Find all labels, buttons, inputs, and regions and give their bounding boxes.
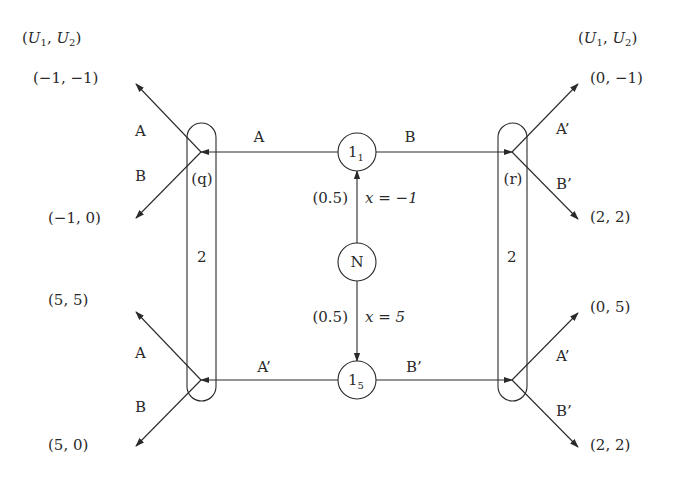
belief-label-r: (r) (504, 170, 523, 188)
payoff-header-left: (U1, U2) (22, 29, 81, 48)
payoff-right-top-upper: (0, −1) (590, 69, 643, 87)
action-label-1_1-left: A (253, 128, 265, 146)
payoff-left-bottom-upper: (5, 5) (48, 291, 88, 309)
payoff-right-bottom-lower: (2, 2) (590, 436, 630, 454)
node-nature-label: N (350, 253, 363, 271)
payoff-right-bottom-upper: (0, 5) (590, 298, 630, 316)
action-right-bottom-lower: B’ (556, 402, 572, 420)
nature-event-up: x = −1 (365, 189, 418, 207)
player-label-right: 2 (507, 248, 517, 266)
action-right-top-lower: B’ (556, 175, 572, 193)
nature-prob-down: (0.5) (312, 308, 348, 326)
action-left-top-lower: B (135, 167, 146, 185)
belief-label-q: (q) (191, 170, 212, 188)
edge-right-top-A-prime (512, 84, 578, 152)
action-left-top-upper: A (134, 122, 146, 140)
nature-prob-up: (0.5) (312, 189, 348, 207)
action-label-1_5-left: A’ (256, 358, 270, 376)
edge-left-top-A (136, 84, 201, 152)
payoff-left-top-lower: (−1, 0) (48, 209, 101, 227)
action-left-bottom-lower: B (135, 398, 146, 416)
player-label-left: 2 (197, 248, 207, 266)
nature-event-down: x = 5 (365, 308, 405, 326)
action-label-1_1-right: B (404, 128, 415, 146)
action-right-bottom-upper: A’ (555, 347, 569, 365)
payoff-header-right: (U1, U2) (578, 29, 637, 48)
payoff-left-bottom-lower: (5, 0) (48, 436, 88, 454)
game-tree-diagram: (U1, U2) (U1, U2) 11 N 15 A B A’ B’ (0.5… (0, 0, 686, 482)
payoff-right-top-lower: (2, 2) (590, 208, 630, 226)
action-left-bottom-upper: A (134, 344, 146, 362)
action-label-1_5-right: B’ (406, 358, 422, 376)
payoff-left-top-upper: (−1, −1) (33, 69, 98, 87)
action-right-top-upper: A’ (555, 120, 569, 138)
